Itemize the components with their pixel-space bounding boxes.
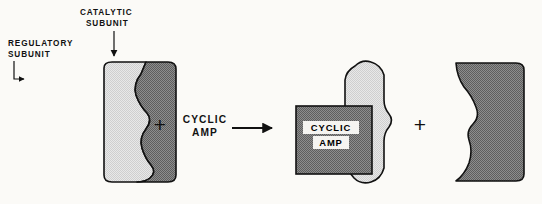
bound-camp-label-line2: AMP — [319, 137, 343, 148]
regulatory-subunit-label-line2: SUBUNIT — [8, 50, 51, 59]
reagent-cyclic-amp-label: CYCLIC AMP — [183, 114, 228, 138]
bound-camp-label-line1: CYCLIC — [311, 122, 351, 133]
catalytic-subunit-label-group: CATALYTIC SUBUNIT — [80, 8, 133, 56]
free-catalytic-subunit — [456, 63, 524, 181]
regulatory-subunit-with-bound-camp: CYCLIC AMP — [296, 61, 392, 183]
catalytic-subunit-label-line1: CATALYTIC — [80, 8, 133, 17]
plus-sign-right: + — [414, 113, 426, 136]
cyclic-amp-dissociation-diagram: CATALYTIC SUBUNIT REGULATORY SUBUNIT + C… — [0, 0, 542, 204]
regulatory-subunit-label-line1: REGULATORY — [8, 39, 73, 48]
diagram-canvas: CATALYTIC SUBUNIT REGULATORY SUBUNIT + C… — [0, 0, 542, 204]
reagent-label-line1: CYCLIC — [183, 114, 228, 125]
reagent-label-line2: AMP — [192, 127, 218, 138]
regulatory-subunit-label-group: REGULATORY SUBUNIT — [8, 39, 73, 79]
catalytic-subunit-label-line2: SUBUNIT — [86, 19, 129, 28]
regulatory-subunit-pointer-elbow-arrow-icon — [14, 61, 24, 79]
plus-sign-left: + — [154, 113, 166, 136]
